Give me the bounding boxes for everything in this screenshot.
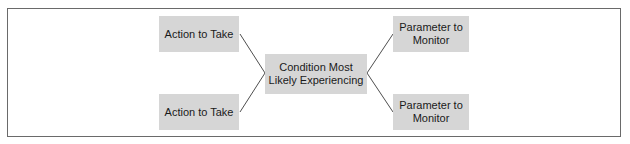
parameter-to-monitor-box-bottom: Parameter to Monitor: [393, 94, 469, 130]
action-to-take-box-bottom: Action to Take: [159, 94, 239, 130]
action-to-take-box-top: Action to Take: [159, 16, 239, 52]
parameter-to-monitor-box-top: Parameter to Monitor: [393, 16, 469, 52]
connector-condition-to-action-bottom: [240, 73, 265, 112]
condition-most-likely-box: Condition Most Likely Experiencing: [265, 54, 367, 94]
connector-condition-to-parameter-top: [367, 34, 393, 73]
connector-condition-to-parameter-bottom: [367, 73, 393, 112]
connector-condition-to-action-top: [240, 34, 265, 73]
